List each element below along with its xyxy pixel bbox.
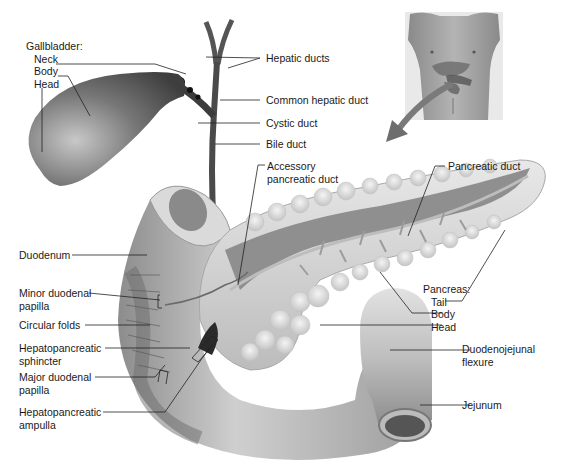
major-papilla-line1: Major duodenal xyxy=(19,371,91,384)
label-duodenojejunal-flexure: Duodenojejunal flexure xyxy=(462,343,535,368)
pancreas-body-label: Body xyxy=(423,308,470,321)
ampulla-line1: Hepatopancreatic xyxy=(19,406,101,419)
label-common-hepatic-duct: Common hepatic duct xyxy=(266,94,368,107)
anatomy-diagram: Gallbladder: Neck Body Head Hepatic duct… xyxy=(0,0,561,473)
label-duodenum: Duodenum xyxy=(19,249,70,262)
label-bile-duct: Bile duct xyxy=(266,138,306,151)
minor-papilla-line1: Minor duodenal xyxy=(19,287,91,300)
label-circular-folds: Circular folds xyxy=(19,319,80,332)
label-minor-duodenal-papilla: Minor duodenal papilla xyxy=(19,287,91,312)
label-cystic-duct: Cystic duct xyxy=(266,117,317,130)
sphincter-line1: Hepatopancreatic xyxy=(19,342,101,355)
pancreas xyxy=(165,159,545,370)
pancreas-heading: Pancreas: xyxy=(423,283,470,296)
label-gallbladder: Gallbladder: Neck Body Head xyxy=(26,40,83,90)
sphincter-line2: sphincter xyxy=(19,355,101,368)
flexure-line1: Duodenojejunal xyxy=(462,343,535,356)
gallbladder-head-label: Head xyxy=(26,78,83,91)
label-jejunum: Jejunum xyxy=(462,399,502,412)
gallbladder-neck-label: Neck xyxy=(26,53,83,66)
flexure-line2: flexure xyxy=(462,356,535,369)
minor-papilla-line2: papilla xyxy=(19,300,91,313)
major-papilla-line2: papilla xyxy=(19,384,91,397)
label-hepatopancreatic-ampulla: Hepatopancreatic ampulla xyxy=(19,406,101,431)
gallbladder-body-label: Body xyxy=(26,65,83,78)
accessory-duct-line2: pancreatic duct xyxy=(267,173,338,186)
gallbladder-heading: Gallbladder: xyxy=(26,40,83,53)
label-hepatopancreatic-sphincter: Hepatopancreatic sphincter xyxy=(19,342,101,367)
label-pancreas: Pancreas: Tail Body Head xyxy=(423,283,470,333)
label-accessory-pancreatic-duct: Accessory pancreatic duct xyxy=(267,160,338,185)
ampulla-line2: ampulla xyxy=(19,419,101,432)
accessory-duct-line1: Accessory xyxy=(267,160,338,173)
label-pancreatic-duct: Pancreatic duct xyxy=(448,160,520,173)
label-hepatic-ducts: Hepatic ducts xyxy=(266,52,330,65)
pancreas-tail-label: Tail xyxy=(423,296,470,309)
label-major-duodenal-papilla: Major duodenal papilla xyxy=(19,371,91,396)
pancreas-head-label: Head xyxy=(423,321,470,334)
